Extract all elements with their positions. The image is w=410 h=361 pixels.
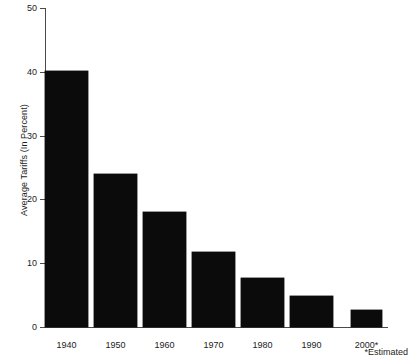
- chart-figure: Average Tariffs (In Percent) 50403020100…: [0, 0, 410, 361]
- estimated-footnote: *Estimated: [364, 347, 408, 357]
- bar-1970: [192, 252, 235, 327]
- y-tick-label: 0: [32, 322, 37, 332]
- bar-1940: [45, 71, 88, 327]
- y-tick-label: 50: [27, 3, 37, 13]
- x-tick-label-1950: 1950: [105, 340, 125, 350]
- y-tick-mark: [40, 327, 45, 328]
- y-axis-title: Average Tariffs (In Percent): [19, 85, 29, 235]
- x-tick-label-1970: 1970: [203, 340, 223, 350]
- y-tick-label: 20: [27, 194, 37, 204]
- bar-1980: [241, 278, 284, 327]
- bar-1960: [143, 212, 186, 327]
- y-tick-mark: [40, 8, 45, 9]
- y-tick-label: 40: [27, 67, 37, 77]
- x-axis-line: [45, 327, 388, 328]
- bar-1990: [290, 296, 333, 327]
- plot-area: 50403020100 1940195019601970198019902000…: [45, 8, 388, 328]
- bar-2000: [351, 310, 382, 327]
- y-tick-label: 10: [27, 258, 37, 268]
- x-tick-label-1980: 1980: [252, 340, 272, 350]
- bar-1950: [94, 174, 137, 327]
- x-tick-label-1960: 1960: [154, 340, 174, 350]
- x-tick-label-1990: 1990: [301, 340, 321, 350]
- y-tick-label: 30: [27, 131, 37, 141]
- x-tick-label-1940: 1940: [56, 340, 76, 350]
